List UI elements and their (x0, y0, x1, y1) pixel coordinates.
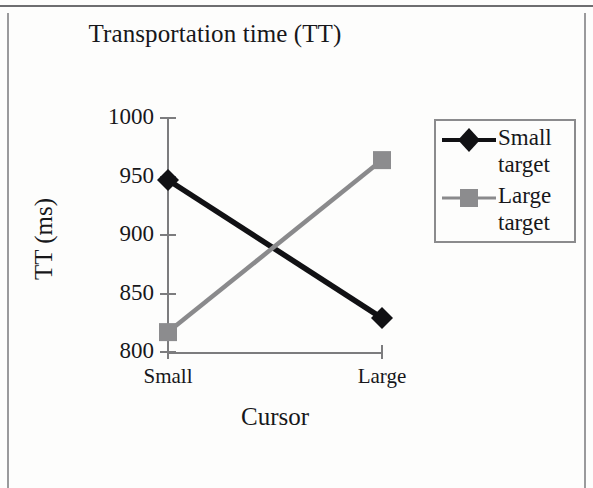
y-axis-tick-mark (160, 176, 176, 178)
legend-item: Largetarget (440, 183, 574, 213)
legend-label-line2: target (498, 153, 550, 176)
line-chart-figure: Transportation time (TT) 800850900950100… (0, 0, 593, 488)
x-axis-tick-label: Large (322, 364, 442, 389)
series-line (168, 160, 382, 332)
square-marker-icon (460, 189, 478, 207)
y-axis-tick-label: 850 (78, 281, 154, 304)
series-1 (157, 169, 393, 329)
square-marker-icon (373, 151, 391, 169)
legend-label-line1: Large (498, 184, 551, 207)
y-axis-tick-label: 1000 (78, 105, 154, 128)
y-axis-tick-mark (160, 117, 176, 119)
series-2 (159, 151, 391, 341)
chart-title: Transportation time (TT) (0, 20, 430, 48)
diamond-marker-icon (371, 307, 393, 329)
x-axis-tick-mark (167, 345, 169, 359)
legend-label-line2: target (498, 211, 550, 234)
y-axis-title: TT (ms) (30, 169, 58, 309)
series-line (168, 180, 382, 318)
x-axis-tick-label: Small (108, 364, 228, 389)
legend-label-line1: Small (498, 126, 552, 149)
y-axis-tick-label: 800 (78, 339, 154, 362)
y-axis-tick-label: 900 (78, 222, 154, 245)
legend-marker-graphic (440, 125, 498, 155)
y-axis-tick-mark (160, 234, 176, 236)
diamond-marker-icon (458, 128, 480, 152)
scanned-figure-page: Transportation time (TT) 800850900950100… (0, 0, 593, 488)
legend-sample-swatch (440, 183, 498, 213)
legend-marker-graphic (440, 183, 498, 213)
x-axis-tick-mark (381, 345, 383, 359)
legend-sample-swatch (440, 125, 498, 155)
y-axis-tick-mark (160, 293, 176, 295)
chart-legend: SmalltargetLargetarget (434, 119, 576, 243)
x-axis-title: Cursor (150, 403, 400, 431)
legend-item: Smalltarget (440, 125, 574, 155)
y-axis-tick-label: 950 (78, 164, 154, 187)
x-axis-line (167, 352, 382, 354)
